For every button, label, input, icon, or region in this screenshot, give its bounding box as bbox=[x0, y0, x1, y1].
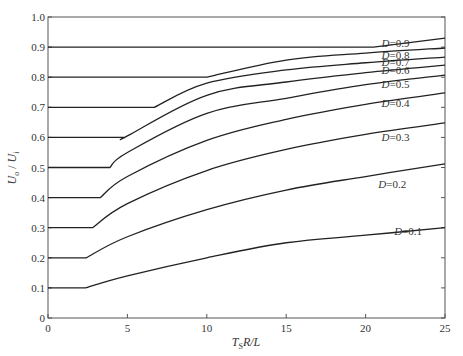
y-tick-label: 0.9 bbox=[31, 41, 45, 53]
curve-label: D=0.3 bbox=[380, 131, 409, 143]
y-tick-label: 0.6 bbox=[31, 131, 45, 143]
y-tick-label: 1.0 bbox=[31, 11, 45, 23]
curve-label: D=0.2 bbox=[377, 178, 406, 190]
x-axis-label: TSR/L bbox=[232, 335, 261, 351]
y-tick-label: 0.4 bbox=[31, 192, 45, 204]
curve-label: D=0.5 bbox=[380, 78, 409, 90]
y-tick-label: 0.3 bbox=[31, 222, 45, 234]
chart: 00.10.20.30.40.50.60.70.80.91.0 05101520… bbox=[0, 0, 463, 356]
x-tick-label: 15 bbox=[281, 322, 293, 334]
x-tick-label: 10 bbox=[201, 322, 213, 334]
x-tick-label: 25 bbox=[440, 322, 452, 334]
x-axis-ticks: 0510152025 bbox=[45, 314, 451, 334]
curve-label: D=0.1 bbox=[393, 225, 422, 237]
curve-label: D=0.8 bbox=[380, 49, 409, 61]
y-tick-label: 0.7 bbox=[31, 101, 45, 113]
y-tick-label: 0.1 bbox=[31, 282, 45, 294]
x-tick-label: 0 bbox=[45, 322, 51, 334]
curve-label: D=0.4 bbox=[380, 97, 409, 109]
curve-label: D=0.9 bbox=[380, 37, 409, 49]
y-tick-label: 0.2 bbox=[31, 252, 45, 264]
x-tick-label: 5 bbox=[125, 322, 131, 334]
x-tick-label: 20 bbox=[360, 322, 372, 334]
y-tick-label: 0.5 bbox=[31, 162, 45, 174]
y-tick-label: 0.8 bbox=[31, 71, 45, 83]
y-axis-label: Uo / Ui bbox=[5, 152, 21, 185]
curve-d-0-1 bbox=[48, 228, 445, 288]
